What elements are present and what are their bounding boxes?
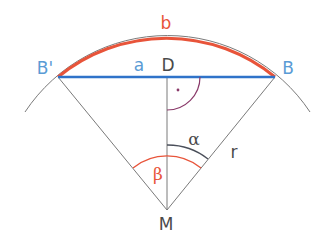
label-point-b-prime: B': [37, 58, 53, 78]
right-angle-dot: [177, 89, 180, 92]
radius-line-b-prime: [58, 77, 167, 210]
label-arc-b: b: [161, 13, 172, 33]
label-point-d: D: [161, 55, 174, 75]
label-point-b: B: [282, 58, 294, 78]
radius-line-b: [167, 77, 275, 210]
label-point-m: M: [159, 214, 174, 234]
label-radius-r: r: [231, 142, 238, 162]
label-chord-a: a: [134, 55, 144, 75]
label-angle-beta: β: [153, 164, 163, 184]
right-angle-arc: [167, 77, 200, 110]
circular-segment-diagram: b a D B B' M r α β: [0, 0, 322, 246]
label-angle-alpha: α: [188, 129, 200, 149]
